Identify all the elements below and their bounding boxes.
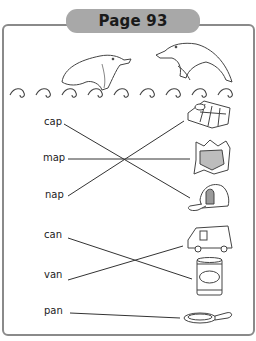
- word-nap: nap: [45, 189, 64, 200]
- worksheet-illustration: [0, 0, 256, 341]
- answer-lines-group2: [68, 238, 192, 318]
- map-icon: [194, 140, 230, 174]
- word-can: can: [44, 229, 62, 240]
- word-cap: cap: [44, 116, 62, 127]
- dolphin-left-icon: [62, 55, 131, 90]
- sleeping-bag-icon: [188, 101, 230, 128]
- dolphin-right-icon: [156, 43, 232, 82]
- word-van: van: [44, 269, 62, 280]
- van-icon: [188, 226, 232, 252]
- waves-decoration: [10, 89, 232, 97]
- word-pan: pan: [44, 305, 63, 316]
- pan-icon: [184, 313, 232, 323]
- answer-lines-group1: [64, 121, 190, 198]
- word-map: map: [43, 152, 65, 163]
- can-icon: [197, 258, 222, 296]
- cap-icon: [188, 185, 228, 211]
